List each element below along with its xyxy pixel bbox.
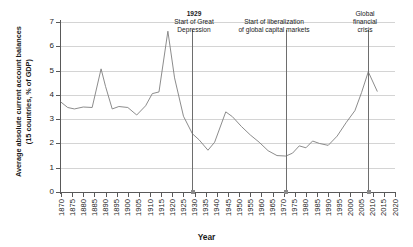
- annotation-vline-gfc: [368, 30, 369, 192]
- y-axis-tick: [56, 143, 61, 144]
- x-axis-tick: [273, 193, 274, 197]
- y-axis-title-line-2: (15 countries, % of GDP): [24, 12, 34, 192]
- x-axis-tick-label: 1920: [168, 199, 177, 216]
- annotation-great-depression-year: 1929: [168, 10, 220, 18]
- x-axis-tick: [228, 193, 229, 197]
- annotation-great-depression-line-2: Depression: [168, 26, 220, 34]
- y-axis-title-line-1: Average absolute current account balance…: [14, 12, 24, 192]
- y-axis-tick-label: 0: [36, 188, 54, 196]
- x-axis-tick-label: 1870: [57, 199, 66, 216]
- y-axis-tick-label: 5: [36, 67, 54, 75]
- x-axis-tick-label: 2005: [357, 199, 366, 216]
- gridline: [61, 119, 395, 120]
- y-axis-tick: [56, 71, 61, 72]
- x-axis-tick-label: 1990: [324, 199, 333, 216]
- x-axis-tick-label: 1955: [246, 199, 255, 216]
- x-axis-tick: [206, 193, 207, 197]
- x-axis-tick: [317, 193, 318, 197]
- x-axis-tick: [362, 193, 363, 197]
- x-axis-tick: [139, 193, 140, 197]
- annotation-capital-liberalization: Start of liberalization of global capita…: [222, 18, 326, 34]
- x-axis-tick: [72, 193, 73, 197]
- x-axis-tick: [339, 193, 340, 197]
- x-axis-tick-label: 1985: [313, 199, 322, 216]
- x-axis-tick-label: 1935: [201, 199, 210, 216]
- x-axis-tick-label: 1995: [335, 199, 344, 216]
- x-axis-tick-label: 1975: [290, 199, 299, 216]
- annotation-vline-1929: [192, 30, 193, 192]
- x-axis-tick-label: 1970: [279, 199, 288, 216]
- x-axis-tick: [128, 193, 129, 197]
- y-axis-tick-label: 7: [36, 18, 54, 26]
- y-axis-tick-label: 1: [36, 164, 54, 172]
- x-axis-tick-label: 1950: [235, 199, 244, 216]
- y-axis-tick: [56, 46, 61, 47]
- x-axis-tick-label: 1915: [157, 199, 166, 216]
- x-axis-tick: [295, 193, 296, 197]
- x-axis-tick: [172, 193, 173, 197]
- x-axis-tick: [117, 193, 118, 197]
- y-axis-tick: [56, 22, 61, 23]
- chart-container: Average absolute current account balance…: [0, 0, 413, 247]
- x-axis-tick: [306, 193, 307, 197]
- annotation-marker-1929: [191, 190, 195, 194]
- x-axis-tick: [106, 193, 107, 197]
- x-axis-tick: [61, 193, 62, 197]
- y-axis-tick-label: 4: [36, 91, 54, 99]
- annotation-marker-liberalization: [284, 190, 288, 194]
- gridline: [61, 46, 395, 47]
- x-axis-tick-label: 1910: [146, 199, 155, 216]
- x-axis-tick-label: 1930: [190, 199, 199, 216]
- annotation-capital-liberalization-line-2: of global capital markets: [222, 26, 326, 34]
- annotation-global-financial-crisis-line-1: Global: [344, 10, 386, 18]
- x-axis-tick-label: 1885: [90, 199, 99, 216]
- y-axis-title: Average absolute current account balance…: [14, 12, 33, 192]
- annotation-vline-liberalization: [286, 30, 287, 192]
- x-axis-tick-label: 1890: [101, 199, 110, 216]
- x-axis-tick: [94, 193, 95, 197]
- x-axis-tick: [250, 193, 251, 197]
- x-axis-title: Year: [0, 232, 413, 242]
- x-axis-tick-label: 1945: [224, 199, 233, 216]
- annotation-great-depression-line-1: Start of Great: [168, 18, 220, 26]
- x-axis-tick: [373, 193, 374, 197]
- y-axis-tick-label: 2: [36, 139, 54, 147]
- x-axis-tick-label: 1900: [123, 199, 132, 216]
- x-axis-tick: [261, 193, 262, 197]
- annotation-global-financial-crisis: Global financial crisis: [344, 10, 386, 35]
- y-axis-tick-label: 6: [36, 42, 54, 50]
- x-axis-tick: [150, 193, 151, 197]
- x-axis-tick-label: 1875: [68, 199, 77, 216]
- x-axis-tick-label: 1960: [257, 199, 266, 216]
- x-axis-tick-label: 1940: [212, 199, 221, 216]
- x-axis-tick: [161, 193, 162, 197]
- x-axis-tick-label: 1980: [301, 199, 310, 216]
- y-axis-tick: [56, 95, 61, 96]
- x-axis-tick-label: 1880: [79, 199, 88, 216]
- gridline: [61, 95, 395, 96]
- annotation-capital-liberalization-line-1: Start of liberalization: [222, 18, 326, 26]
- gridline: [61, 168, 395, 169]
- x-axis-tick: [83, 193, 84, 197]
- x-axis-tick-label: 2015: [379, 199, 388, 216]
- x-axis-tick-label: 1965: [268, 199, 277, 216]
- x-axis-tick-label: 1925: [179, 199, 188, 216]
- x-axis-tick: [239, 193, 240, 197]
- x-axis-tick-label: 1895: [112, 199, 121, 216]
- y-axis-tick: [56, 119, 61, 120]
- gridline: [61, 71, 395, 72]
- x-axis-tick-label: 1905: [134, 199, 143, 216]
- x-axis-tick-label: 2010: [368, 199, 377, 216]
- x-axis-tick-label: 2020: [391, 199, 400, 216]
- x-axis-tick: [350, 193, 351, 197]
- y-axis-tick: [56, 168, 61, 169]
- annotation-great-depression: 1929 Start of Great Depression: [168, 10, 220, 35]
- x-axis-tick: [328, 193, 329, 197]
- annotation-global-financial-crisis-line-2: financial: [344, 18, 386, 26]
- x-axis-tick: [395, 193, 396, 197]
- gridline: [61, 143, 395, 144]
- x-axis-tick: [384, 193, 385, 197]
- x-axis-tick-label: 2000: [346, 199, 355, 216]
- x-axis-tick: [217, 193, 218, 197]
- annotation-marker-gfc: [367, 190, 371, 194]
